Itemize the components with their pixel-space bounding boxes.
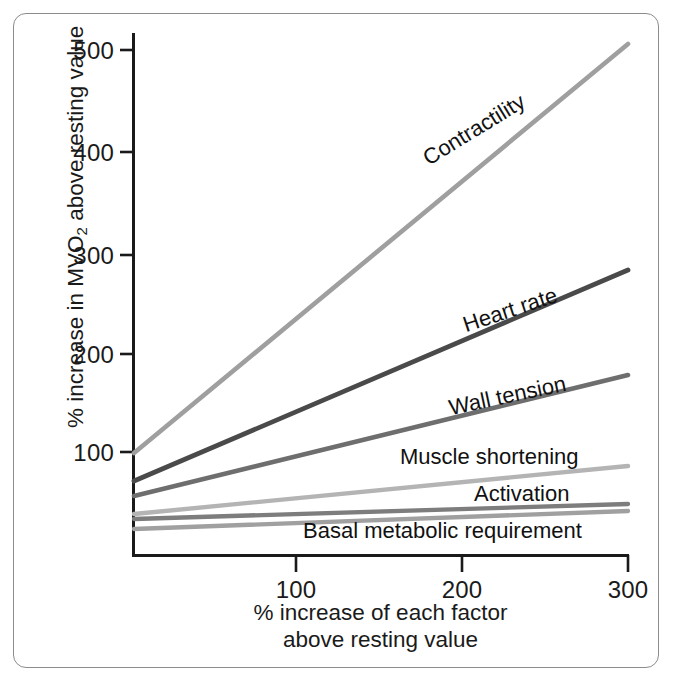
x-axis-title: % increase of each factor above resting … bbox=[133, 600, 628, 653]
y-axis-title-suffix: above resting value bbox=[63, 26, 88, 227]
y-axis-title-prefix: % increase in MVO bbox=[63, 235, 88, 428]
series-label-muscle-shortening: Muscle shortening bbox=[400, 444, 579, 470]
y-axis-title-subscript: 2 bbox=[73, 227, 90, 235]
x-tick-marks bbox=[296, 555, 628, 572]
y-tick-marks bbox=[120, 50, 134, 452]
y-axis-title: % increase in MVO2 above resting value bbox=[63, 108, 89, 428]
series-label-basal-metabolic-requirement: Basal metabolic requirement bbox=[303, 518, 582, 544]
y-tick-label-100: 100 bbox=[48, 439, 114, 467]
x-axis-title-line-2: above resting value bbox=[133, 627, 628, 654]
x-axis-title-line-1: % increase of each factor bbox=[133, 600, 628, 627]
series-label-activation: Activation bbox=[474, 481, 569, 507]
chart-figure: 100 200 300 400 500 100 200 300 % increa… bbox=[0, 0, 675, 683]
